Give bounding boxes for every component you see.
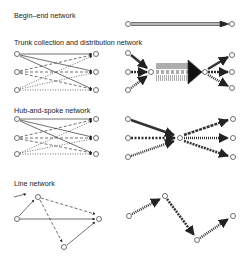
hub-spoke-right xyxy=(126,117,236,160)
hub-spoke-left xyxy=(15,117,99,157)
network-diagram xyxy=(0,0,248,263)
line-left xyxy=(14,194,102,250)
line-right xyxy=(127,194,236,243)
trunk-left xyxy=(15,52,99,93)
begin-end-network xyxy=(126,21,235,27)
trunk-right xyxy=(126,51,235,93)
